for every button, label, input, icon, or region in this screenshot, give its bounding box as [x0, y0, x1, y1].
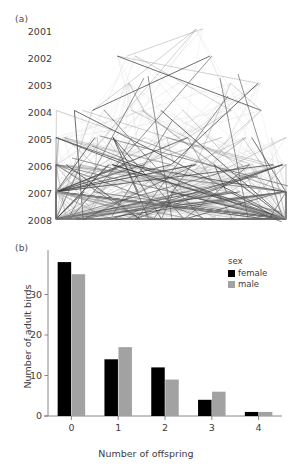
legend-label-male: male: [238, 279, 259, 290]
svg-text:30: 30: [30, 289, 42, 300]
year-tick-2008: 2008: [28, 215, 52, 226]
svg-text:0: 0: [36, 410, 42, 421]
year-tick-2004: 2004: [28, 107, 52, 118]
legend-swatch-female-icon: [228, 270, 235, 277]
svg-text:4: 4: [256, 422, 262, 433]
panel-b: (b) Number of adult birds Number of offs…: [0, 236, 292, 475]
svg-text:3: 3: [209, 422, 215, 433]
legend-title: sex: [228, 256, 267, 267]
year-tick-2005: 2005: [28, 134, 52, 145]
svg-text:10: 10: [30, 370, 42, 381]
figure-root: (a) 2001 2002 2003 2004 2005 2006 2007 2…: [0, 0, 292, 475]
year-tick-2003: 2003: [28, 80, 52, 91]
year-tick-2002: 2002: [28, 53, 52, 64]
panel-a-year-axis: 2001 2002 2003 2004 2005 2006 2007 2008: [0, 26, 52, 226]
svg-text:0: 0: [68, 422, 74, 433]
legend-label-female: female: [238, 268, 267, 279]
legend-item-male: male: [228, 279, 267, 290]
svg-text:2: 2: [162, 422, 168, 433]
legend-swatch-male-icon: [228, 281, 235, 288]
panel-a-tag: (a): [15, 14, 28, 24]
panel-a: (a) 2001 2002 2003 2004 2005 2006 2007 2…: [0, 0, 292, 236]
legend-item-female: female: [228, 268, 267, 279]
svg-text:1: 1: [115, 422, 121, 433]
legend: sex female male: [228, 256, 267, 290]
year-tick-2006: 2006: [28, 161, 52, 172]
pedigree-network-plot: [52, 26, 290, 222]
year-tick-2007: 2007: [28, 188, 52, 199]
svg-text:20: 20: [30, 329, 42, 340]
year-tick-2001: 2001: [28, 26, 52, 37]
